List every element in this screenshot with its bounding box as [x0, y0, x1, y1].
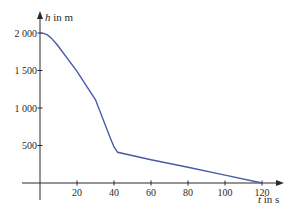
x-axis-arrow-icon	[276, 180, 284, 186]
y-tick-label: 500	[22, 140, 37, 151]
x-tick-label: 100	[218, 187, 233, 198]
chart: 20406080100120 5001 0001 5002 000 h in m…	[0, 0, 296, 212]
height-curve	[40, 33, 262, 183]
y-axis-label: h in m	[45, 11, 74, 23]
y-axis-arrow-icon	[37, 11, 43, 19]
x-tick-label: 80	[183, 187, 193, 198]
axes	[22, 11, 284, 200]
y-ticks: 5001 0001 5002 000	[15, 28, 43, 152]
y-tick-label: 2 000	[15, 28, 38, 39]
y-tick-label: 1 500	[15, 65, 38, 76]
x-tick-label: 20	[72, 187, 82, 198]
x-tick-label: 40	[109, 187, 119, 198]
y-tick-label: 1 000	[15, 103, 38, 114]
x-tick-label: 60	[146, 187, 156, 198]
x-axis-label: t in s	[258, 193, 279, 205]
